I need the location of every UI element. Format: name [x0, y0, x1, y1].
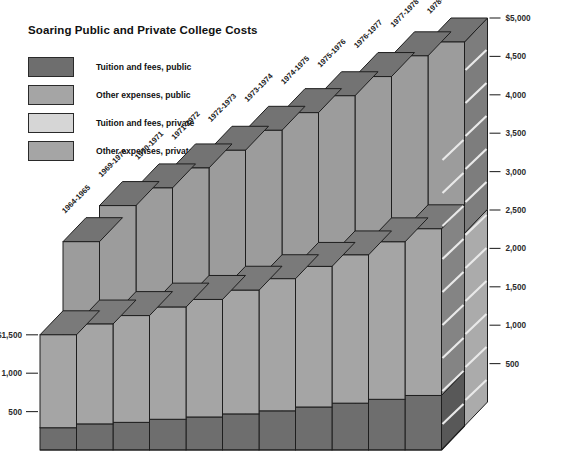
y-axis-right-label: 4,000	[506, 91, 527, 100]
bar-private-other-5	[246, 130, 283, 277]
bar-public-other-5	[223, 290, 260, 414]
x-axis-label-8: 1976-1977	[352, 18, 384, 50]
bar-public-tuition-8	[332, 403, 369, 450]
bar-public-other-7	[296, 266, 333, 407]
bar-public-other-9	[369, 242, 406, 399]
y-axis-left-label: 500	[8, 408, 22, 417]
y-axis-right-label: 500	[506, 360, 520, 369]
bar-public-other-4	[186, 299, 223, 417]
x-axis-label-0: 1964-1965	[60, 183, 93, 216]
x-axis-label-2: 1970-1971	[133, 129, 166, 162]
bar-public-tuition-2	[113, 422, 150, 450]
x-axis-label-7: 1975-1976	[316, 37, 348, 69]
bar-public-other-3	[150, 307, 187, 419]
bar-public-tuition-3	[150, 419, 187, 450]
y-axis-right-label: 4,500	[506, 52, 527, 61]
y-axis-right-label: 1,000	[506, 321, 527, 330]
bar-public-tuition-1	[77, 424, 114, 450]
bar-public-tuition-4	[186, 417, 223, 450]
x-axis-label-10: 1978-1979	[425, 0, 457, 15]
bar-public-other-0	[40, 335, 77, 428]
x-axis-label-5: 1973-1974	[243, 71, 276, 104]
x-axis-label-3: 1971-1972	[170, 109, 202, 141]
bar-public-tuition-7	[296, 407, 333, 450]
bar-public-tuition-10	[405, 395, 442, 450]
y-axis-right-label: 2,000	[506, 244, 527, 253]
y-axis-right-label: 3,500	[506, 129, 527, 138]
bar-public-tuition-9	[369, 399, 406, 450]
bar-private-other-6	[282, 113, 319, 268]
bar-public-other-1	[77, 324, 114, 424]
chart-svg: $1,5001,000500$5,0004,5004,0003,5003,000…	[0, 0, 569, 471]
bar-public-other-2	[113, 316, 150, 423]
x-axis-label-9: 1977-1978	[389, 0, 421, 29]
y-axis-right-label: $5,000	[506, 14, 531, 23]
bar-public-other-8	[332, 255, 369, 403]
y-axis-right-label: 1,500	[506, 283, 527, 292]
bar-private-other-4	[209, 150, 246, 288]
bar-public-tuition-5	[223, 414, 260, 450]
bar-public-tuition-6	[259, 411, 296, 450]
x-axis-label-6: 1974-1975	[279, 53, 312, 86]
bar-public-tuition-0	[40, 428, 77, 450]
bar-public-other-10-side	[442, 205, 465, 396]
y-axis-left-label: 1,000	[2, 369, 23, 378]
y-axis-right-label: 3,000	[506, 168, 527, 177]
y-axis-right-label: 2,500	[506, 206, 527, 215]
bar-public-other-10	[405, 229, 442, 396]
chart-plot-area: $1,5001,000500$5,0004,5004,0003,5003,000…	[0, 0, 569, 471]
bar-private-other-3	[173, 168, 210, 298]
bar-private-other-7	[319, 96, 356, 260]
y-axis-left-label: $1,500	[0, 331, 22, 340]
x-axis-label-4: 1972-1973	[206, 92, 238, 124]
bar-public-other-6	[259, 279, 296, 411]
chart-page: Soaring Public and Private College Costs…	[0, 0, 569, 471]
x-axis-label-1: 1969-1970	[97, 147, 129, 179]
